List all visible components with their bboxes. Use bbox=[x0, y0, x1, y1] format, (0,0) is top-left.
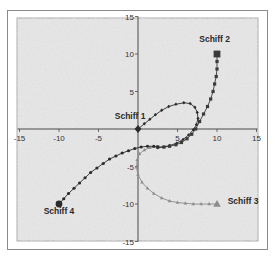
start-marker bbox=[214, 51, 221, 58]
y-tick-label: 10 bbox=[125, 50, 134, 59]
label-schiff-3: Schiff 3 bbox=[228, 196, 259, 206]
data-point bbox=[174, 143, 177, 146]
y-tick-label: 15 bbox=[125, 13, 134, 22]
label-schiff-2: Schiff 2 bbox=[199, 34, 230, 44]
y-tick-label: 5 bbox=[130, 88, 135, 97]
data-point bbox=[213, 82, 216, 85]
x-tick-label: -15 bbox=[14, 134, 26, 143]
data-point bbox=[102, 162, 105, 165]
y-tick-label: -15 bbox=[122, 238, 134, 247]
data-point bbox=[185, 137, 188, 140]
data-point bbox=[180, 141, 183, 144]
data-point bbox=[108, 157, 111, 160]
data-point bbox=[194, 127, 197, 130]
label-schiff-4: Schiff 4 bbox=[44, 206, 75, 216]
y-tick-label: -5 bbox=[127, 163, 135, 172]
data-point bbox=[198, 120, 201, 123]
x-tick-label: -10 bbox=[53, 134, 65, 143]
x-tick-label: -5 bbox=[95, 134, 103, 143]
data-point bbox=[156, 145, 159, 148]
y-tick-label: -10 bbox=[122, 200, 134, 209]
data-point bbox=[133, 147, 136, 150]
scatter-chart: -15-10-551015-15-10-551015 Schiff 1 Schi… bbox=[0, 0, 275, 258]
data-point bbox=[78, 181, 81, 184]
data-point bbox=[190, 133, 193, 136]
data-point bbox=[121, 151, 124, 154]
data-point bbox=[67, 192, 70, 195]
data-point bbox=[83, 176, 86, 179]
data-point bbox=[114, 154, 117, 157]
data-point bbox=[95, 166, 98, 169]
data-point bbox=[140, 145, 143, 148]
data-point bbox=[127, 149, 130, 152]
label-schiff-1: Schiff 1 bbox=[115, 111, 146, 121]
data-point bbox=[209, 97, 212, 100]
data-point bbox=[89, 171, 92, 174]
data-point bbox=[146, 145, 149, 148]
data-point bbox=[202, 112, 205, 115]
data-point bbox=[62, 197, 65, 200]
data-point bbox=[211, 90, 214, 93]
data-point bbox=[215, 75, 218, 78]
data-point bbox=[215, 60, 218, 63]
data-point bbox=[168, 145, 171, 148]
data-point bbox=[215, 67, 218, 70]
data-point bbox=[206, 105, 209, 108]
data-point bbox=[72, 187, 75, 190]
x-tick-label: 15 bbox=[252, 134, 261, 143]
data-point bbox=[152, 145, 155, 148]
data-point bbox=[162, 145, 165, 148]
x-tick-label: 10 bbox=[213, 134, 222, 143]
